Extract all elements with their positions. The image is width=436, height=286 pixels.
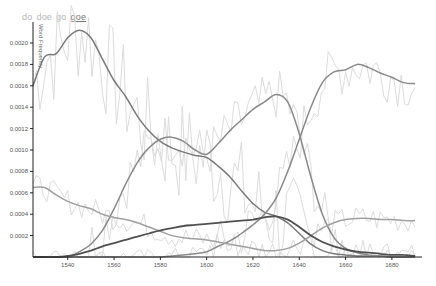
- y-tick-label: 0.0016: [10, 83, 29, 89]
- x-tick-label: 1600: [200, 262, 214, 268]
- x-tick-label: 1640: [293, 262, 307, 268]
- y-axis-title: Word Frequency: [38, 24, 44, 68]
- series-line-smoothed-mid-hump: [33, 94, 415, 257]
- y-tick-label: 0.0006: [10, 190, 29, 196]
- y-tick-label: 0.0012: [10, 126, 29, 132]
- x-tick-label: 1660: [339, 262, 353, 268]
- x-tick-label: 1540: [61, 262, 75, 268]
- y-tick-label: 0.0018: [10, 61, 29, 67]
- raw-line-smoothed-early-peak: [33, 6, 415, 257]
- raw-line-smoothed-mid-hump: [33, 71, 415, 257]
- y-tick-label: 0.0004: [10, 211, 29, 217]
- x-tick-label: 1560: [107, 262, 121, 268]
- series-line-smoothed-late-rise: [33, 64, 415, 257]
- x-tick-label: 1580: [154, 262, 168, 268]
- y-tick-label: 0.0002: [10, 233, 29, 239]
- x-tick-label: 1620: [246, 262, 260, 268]
- y-tick-label: 0.0008: [10, 168, 29, 174]
- y-tick-label: 0.0010: [10, 147, 29, 153]
- raw-line-smoothed-late-rise: [33, 52, 415, 257]
- x-tick-label: 1680: [385, 262, 399, 268]
- y-tick-label: 0.0020: [10, 40, 29, 46]
- line-chart: 0.00020.00040.00060.00080.00100.00120.00…: [0, 0, 436, 286]
- y-tick-label: 0.0014: [10, 104, 29, 110]
